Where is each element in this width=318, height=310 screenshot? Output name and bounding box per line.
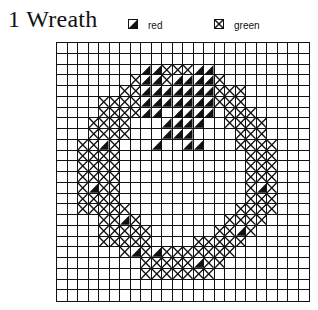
empty-cell bbox=[162, 108, 173, 119]
green-stitch-cell bbox=[204, 258, 215, 269]
empty-cell bbox=[215, 290, 226, 301]
red-stitch-cell bbox=[204, 65, 215, 76]
empty-cell bbox=[78, 269, 89, 280]
empty-cell bbox=[141, 290, 152, 301]
empty-cell bbox=[246, 65, 257, 76]
empty-cell bbox=[152, 54, 163, 65]
empty-cell bbox=[183, 43, 194, 54]
green-stitch-cell bbox=[141, 247, 152, 258]
empty-cell bbox=[257, 43, 268, 54]
green-stitch-cell bbox=[257, 129, 268, 140]
green-stitch-cell bbox=[110, 183, 121, 194]
green-stitch-cell bbox=[246, 183, 257, 194]
empty-cell bbox=[215, 204, 226, 215]
empty-cell bbox=[57, 151, 68, 162]
empty-cell bbox=[131, 194, 142, 205]
empty-cell bbox=[267, 65, 278, 76]
green-stitch-cell bbox=[120, 204, 131, 215]
red-stitch-cell bbox=[99, 140, 110, 151]
empty-cell bbox=[173, 290, 184, 301]
green-stitch-cell bbox=[131, 215, 142, 226]
empty-cell bbox=[236, 269, 247, 280]
empty-cell bbox=[78, 129, 89, 140]
green-stitch-cell bbox=[110, 172, 121, 183]
green-stitch-cell bbox=[99, 226, 110, 237]
empty-cell bbox=[236, 43, 247, 54]
empty-cell bbox=[215, 65, 226, 76]
red-stitch-cell bbox=[152, 108, 163, 119]
empty-cell bbox=[57, 118, 68, 129]
green-stitch-cell bbox=[78, 140, 89, 151]
empty-cell bbox=[257, 280, 268, 291]
red-stitch-cell bbox=[173, 129, 184, 140]
red-stitch-cell bbox=[194, 108, 205, 119]
empty-cell bbox=[257, 290, 268, 301]
empty-cell bbox=[131, 140, 142, 151]
empty-cell bbox=[225, 290, 236, 301]
red-stitch-cell bbox=[162, 129, 173, 140]
empty-cell bbox=[299, 97, 310, 108]
empty-cell bbox=[78, 280, 89, 291]
empty-cell bbox=[99, 86, 110, 97]
green-stitch-cell bbox=[246, 215, 257, 226]
green-stitch-cell bbox=[246, 172, 257, 183]
empty-cell bbox=[288, 97, 299, 108]
empty-cell bbox=[120, 258, 131, 269]
empty-cell bbox=[278, 43, 289, 54]
empty-cell bbox=[57, 140, 68, 151]
empty-cell bbox=[299, 54, 310, 65]
empty-cell bbox=[257, 108, 268, 119]
empty-cell bbox=[204, 118, 215, 129]
empty-cell bbox=[89, 290, 100, 301]
empty-cell bbox=[173, 161, 184, 172]
empty-cell bbox=[225, 140, 236, 151]
green-stitch-cell bbox=[141, 258, 152, 269]
empty-cell bbox=[299, 247, 310, 258]
empty-cell bbox=[152, 183, 163, 194]
empty-cell bbox=[57, 54, 68, 65]
empty-cell bbox=[173, 54, 184, 65]
empty-cell bbox=[57, 280, 68, 291]
empty-cell bbox=[68, 172, 79, 183]
green-stitch-cell bbox=[141, 226, 152, 237]
empty-cell bbox=[78, 75, 89, 86]
empty-cell bbox=[141, 43, 152, 54]
empty-cell bbox=[236, 280, 247, 291]
empty-cell bbox=[257, 65, 268, 76]
green-stitch-cell bbox=[267, 183, 278, 194]
empty-cell bbox=[204, 204, 215, 215]
empty-cell bbox=[110, 54, 121, 65]
empty-cell bbox=[236, 65, 247, 76]
green-stitch-cell bbox=[99, 237, 110, 248]
green-stitch-cell bbox=[99, 204, 110, 215]
empty-cell bbox=[162, 54, 173, 65]
red-stitch-cell bbox=[162, 86, 173, 97]
empty-cell bbox=[131, 204, 142, 215]
green-stitch-cell bbox=[267, 204, 278, 215]
red-stitch-cell bbox=[152, 86, 163, 97]
empty-cell bbox=[278, 269, 289, 280]
empty-cell bbox=[57, 183, 68, 194]
empty-cell bbox=[141, 140, 152, 151]
empty-cell bbox=[215, 269, 226, 280]
green-stitch-cell bbox=[236, 108, 247, 119]
empty-cell bbox=[183, 290, 194, 301]
empty-cell bbox=[78, 97, 89, 108]
green-stitch-cell bbox=[257, 118, 268, 129]
empty-cell bbox=[131, 118, 142, 129]
empty-cell bbox=[236, 183, 247, 194]
empty-cell bbox=[288, 247, 299, 258]
red-stitch-cell bbox=[236, 226, 247, 237]
empty-cell bbox=[173, 226, 184, 237]
red-half-square-icon bbox=[128, 19, 138, 29]
red-stitch-cell bbox=[120, 215, 131, 226]
green-stitch-cell bbox=[162, 269, 173, 280]
empty-cell bbox=[299, 237, 310, 248]
green-stitch-cell bbox=[78, 172, 89, 183]
green-stitch-cell bbox=[99, 183, 110, 194]
empty-cell bbox=[68, 129, 79, 140]
empty-cell bbox=[183, 280, 194, 291]
empty-cell bbox=[267, 258, 278, 269]
empty-cell bbox=[99, 247, 110, 258]
green-stitch-cell bbox=[267, 194, 278, 205]
